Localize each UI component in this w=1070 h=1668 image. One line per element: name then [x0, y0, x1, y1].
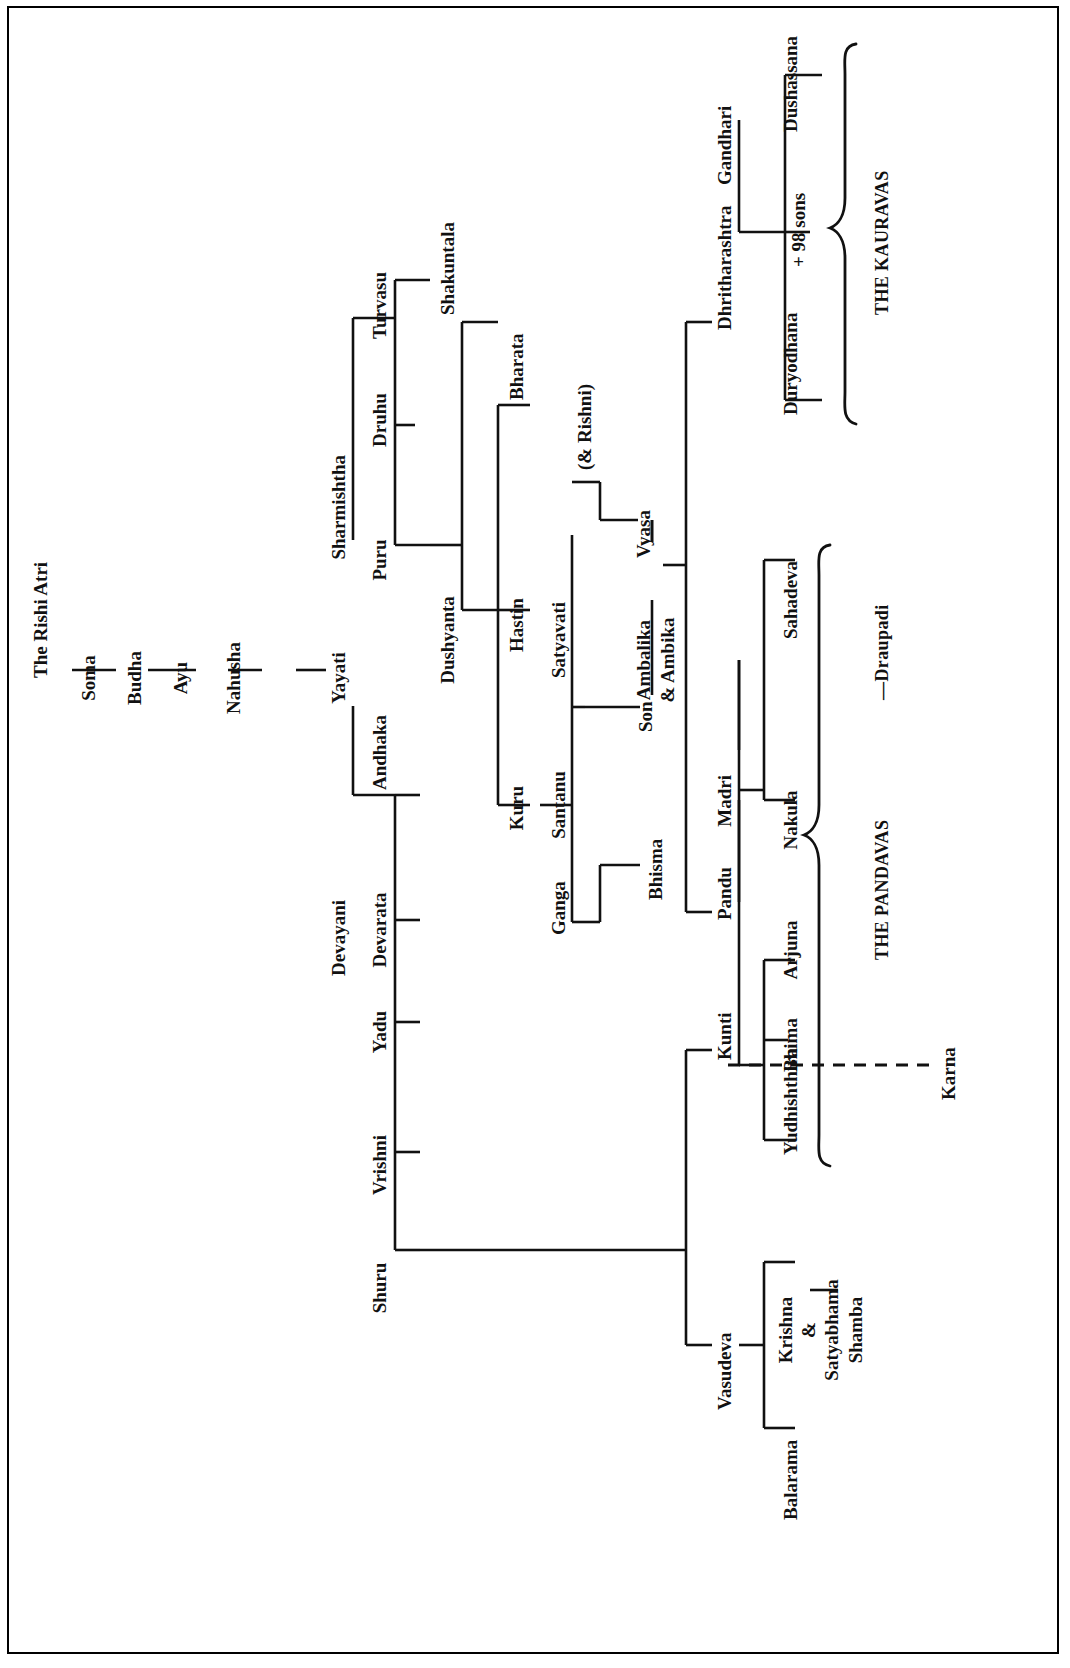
node-ambalika: Ambalika	[633, 619, 654, 700]
node-bharata: Bharata	[506, 333, 527, 400]
node-krishna: Krishna	[775, 1296, 796, 1363]
node-dushyanta: Dushyanta	[437, 596, 458, 684]
node-shuru: Shuru	[369, 1262, 390, 1313]
node-hastin: Hastin	[506, 598, 527, 652]
node-kuru: Kuru	[506, 785, 527, 830]
node-karna: Karna	[938, 1047, 959, 1100]
shuru-descent-connectors	[420, 1050, 712, 1345]
kauravas-brace	[830, 44, 856, 424]
node-bhisma: Bhisma	[645, 838, 666, 900]
node-shamba: Shamba	[845, 1296, 866, 1363]
node-son: Son	[635, 701, 656, 732]
group-label-pandavas: THE PANDAVAS	[872, 820, 892, 960]
node-arjuna: Arjuna	[780, 920, 801, 980]
node-98-sons: + 98 sons	[788, 193, 809, 267]
node-budha: Budha	[124, 651, 145, 705]
node-devarata: Devarata	[369, 892, 390, 967]
node-balarama: Balarama	[780, 1439, 801, 1520]
node-turvasu: Turvasu	[369, 272, 390, 339]
node-krishna-ampersand: &	[798, 1322, 819, 1338]
group-label-kauravas: THE KAURAVAS	[872, 170, 892, 315]
node-nakula: Nakula	[780, 790, 801, 850]
node-nahusha: Nahusha	[223, 642, 244, 714]
node-dushassana: Dushassana	[780, 35, 801, 132]
node-devayani: Devayani	[328, 900, 349, 976]
santanu-marriage-connectors	[572, 482, 640, 922]
node-sahadeva: Sahadeva	[780, 560, 801, 639]
node-puru: Puru	[369, 539, 390, 581]
node-kunti: Kunti	[714, 1012, 735, 1060]
node-rishi-atri: The Rishi Atri	[30, 562, 51, 678]
node-soma: Soma	[78, 655, 99, 701]
next-generation-connectors	[663, 322, 712, 912]
node-sharmishtha: Sharmishtha	[328, 455, 349, 560]
node-vrishni: Vrishni	[369, 1135, 390, 1195]
genealogy-page: The Rishi Atri Soma Budha Ayu Nahusha Ya…	[0, 0, 1070, 1668]
node-santanu: Santanu	[548, 771, 569, 839]
family-tree-diagram: The Rishi Atri Soma Budha Ayu Nahusha Ya…	[0, 0, 1070, 1668]
node-pandu: Pandu	[714, 867, 735, 920]
node-satyavati: Satyavati	[548, 602, 569, 678]
node-dhritharashtra: Dhritharashtra	[714, 205, 735, 330]
group-label-draupadi: —Draupadi	[872, 604, 892, 701]
node-vyasa: Vyasa	[633, 510, 654, 558]
node-yayati: Yayati	[328, 652, 349, 704]
sharmishtha-children-connectors	[353, 280, 430, 545]
node-druhu: Druhu	[369, 393, 390, 447]
node-duryodhana: Duryodhana	[780, 312, 801, 415]
node-vasudeva: Vasudeva	[714, 1332, 735, 1410]
node-satyabhama: Satyabhama	[821, 1279, 842, 1381]
node-ayu: Ayu	[170, 661, 191, 694]
node-ambika: & Ambika	[657, 617, 678, 702]
node-madri: Madri	[714, 775, 735, 827]
node-bhima: Bhima	[780, 1018, 801, 1072]
node-ganga: Ganga	[548, 881, 569, 935]
pandavas-brace	[804, 545, 830, 1166]
node-yadu: Yadu	[369, 1010, 390, 1053]
node-gandhari: Gandhari	[714, 106, 735, 185]
node-andhaka: Andhaka	[369, 715, 390, 790]
node-shakuntala: Shakuntala	[437, 222, 458, 315]
node-rishni: (& Rishni)	[574, 384, 596, 470]
